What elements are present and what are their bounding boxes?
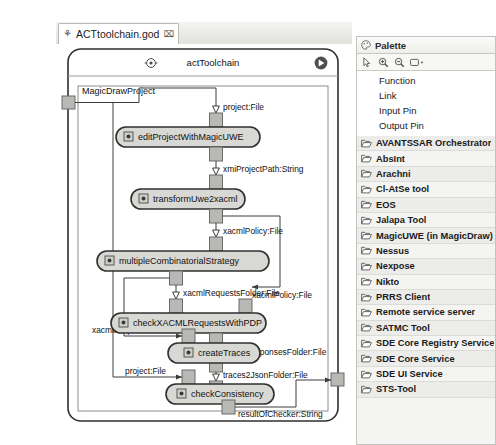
- palette-category-label: SATMC Tool: [376, 323, 430, 333]
- pin-n6-out[interactable]: [222, 400, 235, 414]
- editor-tab-acttoolchain[interactable]: ⚘ ACTtoolchain.god ⌧: [58, 23, 179, 44]
- diagram-editor: ⚘ ACTtoolchain.god ⌧ actT: [56, 22, 352, 445]
- palette-category-label: SDE UI Service: [376, 369, 443, 379]
- node-label: checkXACMLRequestsWithPDP: [133, 318, 262, 328]
- edge-label-xacmlpolicy: xacmlPolicy:File: [223, 226, 283, 236]
- node-label: transformUwe2xacml: [153, 194, 238, 204]
- palette-category[interactable]: EOS: [357, 198, 495, 213]
- node-checkConsistency[interactable]: checkConsistency: [166, 384, 274, 404]
- palette-category[interactable]: Arachni: [357, 167, 495, 182]
- zoom-out-icon[interactable]: [394, 57, 405, 68]
- folder-icon: [361, 385, 372, 394]
- palette-category[interactable]: STS-Tool: [357, 382, 495, 397]
- pin-n4-in-2[interactable]: [239, 299, 252, 313]
- palette-item-link[interactable]: Link: [357, 88, 495, 103]
- folder-icon: [361, 277, 372, 286]
- palette-category-label: STS-Tool: [376, 384, 416, 394]
- palette-category-label: SDE Core Registry Service: [376, 338, 494, 348]
- folder-icon: [361, 354, 372, 363]
- palette-category[interactable]: Nessus: [357, 244, 495, 259]
- palette-category[interactable]: Nikto: [357, 275, 495, 290]
- application-window: ⚘ ACTtoolchain.god ⌧ actT: [0, 0, 496, 445]
- palette-category-list: AVANTSSAR OrchestratorAbsIntArachniCl-At…: [357, 136, 495, 398]
- palette-category-label: AVANTSSAR Orchestrator: [376, 138, 491, 148]
- palette-category-label: AbsInt: [376, 154, 405, 164]
- folder-icon: [361, 139, 372, 148]
- palette-category[interactable]: SDE Core Registry Service: [357, 336, 495, 351]
- frame-output-pin[interactable]: [331, 373, 344, 386]
- palette-icon: [361, 40, 371, 50]
- diagram-canvas[interactable]: actToolchain MagicDrawProject: [56, 44, 352, 445]
- folder-icon: [361, 308, 372, 317]
- folder-icon: [361, 339, 372, 348]
- palette-category-label: Nessus: [376, 246, 409, 256]
- node-label: createTraces: [198, 348, 251, 358]
- edge-label-traces2json: traces2JsonFolder:File: [223, 370, 308, 380]
- folder-icon: [361, 231, 372, 240]
- folder-icon: [361, 200, 372, 209]
- close-icon[interactable]: ⌧: [163, 29, 172, 39]
- layout-dropdown-icon[interactable]: [410, 57, 424, 68]
- folder-icon: [361, 216, 372, 225]
- palette-category[interactable]: AbsInt: [357, 151, 495, 166]
- play-circle-icon[interactable]: [315, 57, 328, 70]
- node-label: multipleCombinatorialStrategy: [119, 256, 240, 266]
- palette-item-output-pin[interactable]: Output Pin: [357, 118, 495, 133]
- node-createTraces[interactable]: createTraces: [168, 343, 260, 363]
- palette-header: Palette: [357, 37, 495, 54]
- palette-category[interactable]: SDE Core Service: [357, 351, 495, 366]
- cursor-arrow-icon[interactable]: [362, 57, 373, 68]
- palette-toolbar: [357, 54, 495, 71]
- folder-icon: [361, 293, 372, 302]
- edge-label-xmiprojectpath: xmiProjectPath:String: [223, 164, 304, 174]
- palette-category-label: MagicUWE (in MagicDraw): [376, 231, 493, 241]
- pin-n2-out[interactable]: [210, 209, 223, 223]
- node-transformUwe2xacml[interactable]: transformUwe2xacml: [131, 189, 245, 209]
- palette-category[interactable]: PRRS Client: [357, 290, 495, 305]
- palette-item-input-pin[interactable]: Input Pin: [357, 103, 495, 118]
- folder-icon: [361, 185, 372, 194]
- palette-category-label: Remote service server: [376, 307, 475, 317]
- palette-panel: Palette Function Lin: [356, 36, 496, 445]
- activity-diagram: actToolchain MagicDrawProject: [56, 44, 352, 445]
- folder-icon: [361, 370, 372, 379]
- folder-icon: [361, 169, 372, 178]
- edge-label-resultofchecker: resultOfChecker:String: [238, 409, 323, 419]
- pin-n1-out[interactable]: [210, 147, 223, 161]
- pin-n6-in-1[interactable]: [182, 370, 195, 384]
- palette-category[interactable]: Jalapa Tool: [357, 213, 495, 228]
- palette-category-label: PRRS Client: [376, 292, 430, 302]
- node-multipleCombinatorialStrategy[interactable]: multipleCombinatorialStrategy: [97, 251, 269, 271]
- edge-label-project-file-2: project:File: [125, 366, 166, 376]
- node-editProjectWithMagicUWE[interactable]: editProjectWithMagicUWE: [116, 127, 260, 147]
- pin-n3-out[interactable]: [170, 271, 183, 285]
- palette-category-label: Nexpose: [376, 261, 415, 271]
- activity-diagram-icon: ⚘: [63, 29, 72, 39]
- palette-category[interactable]: Cl-AtSe tool: [357, 182, 495, 197]
- palette-category[interactable]: AVANTSSAR Orchestrator: [357, 136, 495, 151]
- palette-category-label: EOS: [376, 200, 396, 210]
- pin-n1-in[interactable]: [210, 113, 223, 127]
- palette-category[interactable]: SATMC Tool: [357, 321, 495, 336]
- pin-n4-in-1[interactable]: [170, 299, 183, 313]
- palette-basic-group: Function Link Input Pin Output Pin: [357, 71, 495, 136]
- node-label: editProjectWithMagicUWE: [138, 132, 244, 142]
- editor-tab-strip: ⚘ ACTtoolchain.god ⌧: [56, 22, 352, 45]
- palette-category[interactable]: Remote service server: [357, 305, 495, 320]
- palette-category-label: SDE Core Service: [376, 354, 455, 364]
- frame-input-pin[interactable]: [62, 96, 75, 109]
- palette-category[interactable]: MagicUWE (in MagicDraw): [357, 228, 495, 243]
- edge-label-project-file: project:File: [223, 102, 264, 112]
- pin-n3-in[interactable]: [210, 237, 223, 251]
- pin-n5-in-1[interactable]: [182, 329, 195, 343]
- palette-item-function[interactable]: Function: [357, 73, 495, 88]
- editor-tab-label: ACTtoolchain.god: [76, 28, 159, 40]
- palette-category[interactable]: Nexpose: [357, 259, 495, 274]
- palette-category[interactable]: SDE UI Service: [357, 367, 495, 382]
- folder-icon: [361, 246, 372, 255]
- pin-n2-in[interactable]: [210, 175, 223, 189]
- folder-icon: [361, 262, 372, 271]
- activity-frame[interactable]: [68, 49, 338, 421]
- diagram-title: actToolchain: [187, 57, 240, 68]
- zoom-in-icon[interactable]: [378, 57, 389, 68]
